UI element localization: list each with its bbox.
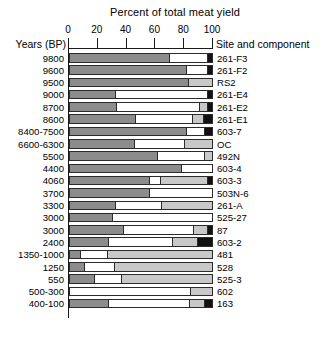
row-site-label: 87: [217, 225, 228, 236]
bar-segment: [207, 103, 212, 111]
row-year-label: 5500: [0, 151, 64, 162]
chart-row: 2400603-2: [0, 236, 336, 248]
stacked-bar: [69, 274, 213, 284]
bar-segment: [181, 165, 212, 173]
x-tick-label-0: 0: [65, 24, 71, 35]
stacked-bar: [69, 287, 213, 297]
bar-segment: [135, 115, 192, 123]
row-site-label: OC: [217, 139, 231, 150]
chart-row: 300087: [0, 224, 336, 236]
chart-row: 4060603-3: [0, 175, 336, 187]
row-year-label: 400-100: [0, 298, 64, 309]
row-year-label: 3000: [0, 225, 64, 236]
row-year-label: 1250: [0, 262, 64, 273]
stacked-bar: [69, 299, 213, 309]
row-site-label: 261-E4: [217, 89, 248, 100]
stacked-bar: [69, 237, 213, 247]
bar-segment: [70, 140, 134, 148]
stacked-bar: [69, 176, 213, 186]
bar-segment: [188, 79, 212, 87]
row-year-label: 8400-7500: [0, 126, 64, 137]
bar-segment: [204, 152, 212, 160]
bar-segment: [115, 202, 161, 210]
chart-row: 8700261-E2: [0, 101, 336, 113]
chart-row: 400-100163: [0, 298, 336, 310]
chart-row: 8400-7500603-7: [0, 126, 336, 138]
chart-row: 9000261-E4: [0, 89, 336, 101]
bar-segment: [70, 128, 186, 136]
x-tick-mark-80: [183, 38, 184, 48]
row-site-label: 603-3: [217, 175, 242, 186]
bar-segment: [204, 300, 212, 308]
bar-segment: [107, 251, 212, 259]
chart-row: 1250528: [0, 261, 336, 273]
bar-segment: [197, 238, 212, 246]
stacked-bar: [69, 102, 213, 112]
row-site-label: 261-E1: [217, 114, 248, 125]
row-year-label: 3700: [0, 188, 64, 199]
chart-row: 3000525-27: [0, 212, 336, 224]
stacked-bar: [69, 90, 213, 100]
bar-segment: [70, 214, 112, 222]
x-tick-label-80: 80: [178, 24, 189, 35]
bar-segment: [207, 54, 212, 62]
row-site-label: 525-27: [217, 212, 247, 223]
site-column-header: Site and component: [216, 38, 309, 50]
bar-segment: [108, 238, 173, 246]
stacked-bar-chart: Percent of total meat yield 020406080100…: [0, 0, 336, 359]
x-axis-tick-marks: [68, 38, 212, 48]
chart-row: 6600-6300OC: [0, 138, 336, 150]
bar-segment: [190, 288, 212, 296]
stacked-bar: [69, 164, 213, 174]
chart-row: 550525-3: [0, 273, 336, 285]
stacked-bar: [69, 127, 213, 137]
bar-segment: [193, 226, 207, 234]
bar-segment: [121, 275, 212, 283]
row-year-label: 4060: [0, 175, 64, 186]
bar-segment: [157, 152, 204, 160]
bar-segment: [70, 275, 94, 283]
bar-segment: [70, 202, 115, 210]
chart-rows: 9800261-F39600261-F29500RS29000261-E4870…: [0, 52, 336, 310]
row-site-label: 503N-6: [217, 188, 248, 199]
bar-segment: [172, 238, 197, 246]
row-site-label: 261-A: [217, 200, 243, 211]
bar-segment: [204, 128, 212, 136]
row-site-label: 481: [217, 249, 233, 260]
row-year-label: 6600-6300: [0, 139, 64, 150]
chart-row: 9500RS2: [0, 77, 336, 89]
bar-segment: [70, 115, 135, 123]
row-site-label: 602: [217, 286, 233, 297]
chart-title-text: Percent of total meat yield: [96, 6, 240, 18]
row-site-label: 261-E2: [217, 102, 248, 113]
bar-segment: [207, 66, 212, 74]
bar-segment: [207, 177, 212, 185]
bar-segment: [70, 288, 190, 296]
bar-segment: [108, 300, 190, 308]
x-tick-mark-20: [97, 38, 98, 48]
bar-segment: [184, 140, 212, 148]
row-year-label: 3000: [0, 212, 64, 223]
chart-row: 1350-1000481: [0, 249, 336, 261]
row-year-label: 8600: [0, 114, 64, 125]
row-site-label: 492N: [217, 151, 240, 162]
stacked-bar: [69, 151, 213, 161]
bar-segment: [199, 103, 207, 111]
row-site-label: 528: [217, 262, 233, 273]
stacked-bar: [69, 114, 213, 124]
chart-row: 8600261-E1: [0, 113, 336, 125]
chart-row: 3300261-A: [0, 200, 336, 212]
row-year-label: 9500: [0, 77, 64, 88]
bar-segment: [70, 177, 149, 185]
row-year-label: 550: [0, 274, 64, 285]
bar-segment: [149, 189, 212, 197]
x-tick-mark-40: [126, 38, 127, 48]
x-tick-mark-60: [154, 38, 155, 48]
years-column-header: Years (BP): [2, 38, 66, 50]
bar-segment: [70, 226, 123, 234]
chart-row: 9800261-F3: [0, 52, 336, 64]
bar-segment: [112, 214, 212, 222]
row-site-label: 603-4: [217, 163, 242, 174]
row-year-label: 9000: [0, 89, 64, 100]
stacked-bar: [69, 78, 213, 88]
